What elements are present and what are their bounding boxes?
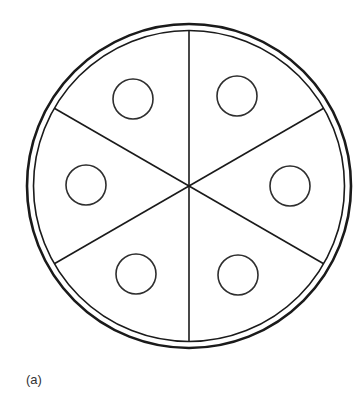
figure-caption: (a) [26,372,42,387]
small-circle-bottom-right [218,255,258,295]
sectored-disc-diagram [0,0,363,409]
disc [27,24,351,348]
small-circle-top-right [217,76,257,116]
small-circle-right [270,166,310,206]
small-circle-top-left [113,79,153,119]
small-circle-bottom-left [116,254,156,294]
small-circle-left [66,165,106,205]
